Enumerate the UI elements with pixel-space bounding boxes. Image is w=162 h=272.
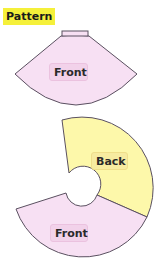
waistband	[62, 31, 88, 36]
top-front-label: Front	[49, 63, 88, 81]
bottom-front-label: Front	[50, 224, 88, 242]
back-label: Back	[91, 152, 128, 170]
